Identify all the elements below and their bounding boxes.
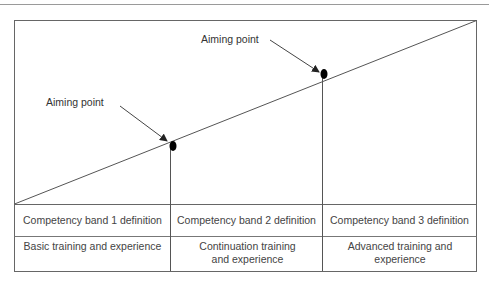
progression-diagonal-line xyxy=(15,21,477,205)
band-2-definition-cell: Competency band 2 definition xyxy=(171,205,322,236)
aiming-point-dot-1 xyxy=(170,141,177,151)
band-1-definition-cell: Competency band 1 definition xyxy=(15,205,170,236)
arrow-to-aiming-point-1 xyxy=(120,106,167,141)
arrow-to-aiming-point-2 xyxy=(270,40,319,72)
band-1-training-cell: Basic training and experience xyxy=(15,237,170,271)
band-3-training-cell: Advanced training and experience xyxy=(345,237,455,271)
aiming-point-label-1: Aiming point xyxy=(46,96,104,108)
aiming-point-dot-2 xyxy=(321,69,328,79)
aiming-point-label-2: Aiming point xyxy=(201,33,259,45)
band-3-definition-cell: Competency band 3 definition xyxy=(323,205,476,236)
band-2-training-cell: Continuation training and experience xyxy=(190,237,305,271)
